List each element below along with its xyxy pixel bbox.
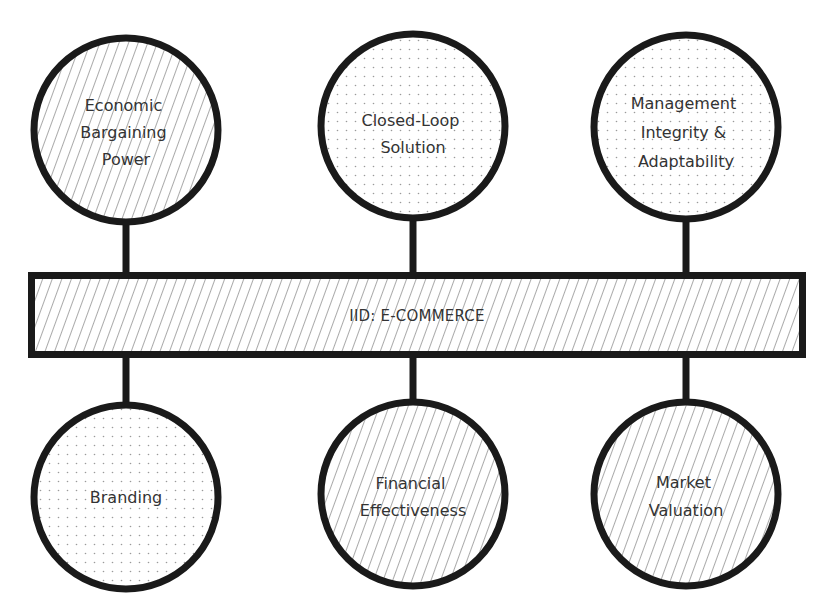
node-label-line: Adaptability [638,152,734,171]
iid-ecommerce-diagram: IID: E-COMMERCE Economic Bargaining Powe… [0,0,834,613]
node-label-line: Management [631,94,736,113]
node-label-line: Effectiveness [360,501,466,520]
node-label-line: Branding [90,488,162,507]
node-economic-bargaining-power: Economic Bargaining Power [34,38,218,222]
node-closed-loop-solution: Closed-Loop Solution [321,34,505,218]
node-label-line: Financial [375,474,445,493]
node-circle [594,402,778,586]
central-bar-label: IID: E-COMMERCE [349,307,484,325]
node-circle [321,402,505,586]
node-label: Branding [90,488,162,507]
node-label: Management Integrity & Adaptability [631,94,742,171]
node-label-line: Economic [85,96,162,115]
node-label-line: Power [102,150,151,169]
node-label-line: Solution [380,138,445,157]
node-market-valuation: Market Valuation [594,402,778,586]
central-bar: IID: E-COMMERCE [32,276,803,355]
node-label-line: Bargaining [80,123,166,142]
node-management-integrity-adaptability: Management Integrity & Adaptability [594,35,778,219]
node-label-line: Closed-Loop [362,111,460,130]
node-branding: Branding [34,405,218,589]
node-financial-effectiveness: Financial Effectiveness [321,402,505,586]
node-label-line: Valuation [649,501,724,520]
node-label-line: Integrity & [641,123,726,142]
node-label-line: Market [656,473,711,492]
